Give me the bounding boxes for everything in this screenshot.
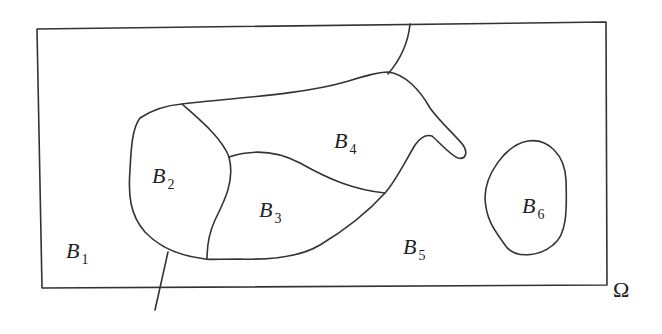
label-b6: B6	[522, 195, 544, 222]
label-b2: B2	[152, 165, 174, 192]
blob-boundary-b2-b3-b4	[129, 72, 465, 259]
label-b3: B3	[259, 199, 281, 226]
domain-boundary	[37, 22, 607, 288]
divider-b2-b3	[207, 157, 231, 259]
divider-b1-b5-bottom	[155, 252, 168, 310]
label-omega: Ω	[613, 279, 629, 301]
divider-b3-b4	[229, 152, 385, 193]
label-b1: B1	[66, 240, 88, 267]
label-b5: B5	[403, 236, 425, 263]
divider-b2-b4	[182, 104, 229, 157]
domain-partition-diagram	[0, 0, 662, 334]
divider-b1-b5-top	[388, 24, 410, 74]
label-b4: B4	[334, 130, 356, 157]
